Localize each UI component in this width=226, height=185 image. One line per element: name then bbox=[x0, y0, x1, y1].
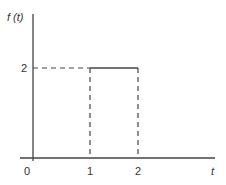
x-axis-label: t bbox=[211, 165, 215, 177]
y-tick-2: 2 bbox=[21, 62, 27, 74]
y-axis-label: f (t) bbox=[7, 11, 24, 23]
pulse-chart: f (t) 2 0 1 2 t bbox=[0, 0, 226, 185]
origin-label: 0 bbox=[24, 165, 30, 177]
x-tick-1: 1 bbox=[87, 165, 93, 177]
x-tick-2: 2 bbox=[135, 165, 141, 177]
